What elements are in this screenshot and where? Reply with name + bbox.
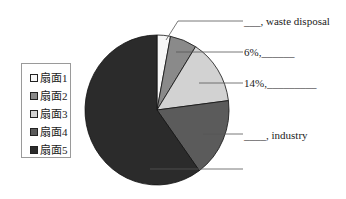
legend-swatch-5 [30, 146, 38, 154]
legend-item-4: 扇面4 [30, 125, 68, 139]
slice3-percent: 14%, [244, 77, 267, 89]
slice4-annotation: ____, industry [244, 129, 308, 141]
legend-label-3: 扇面3 [40, 107, 68, 121]
legend-swatch-3 [30, 110, 38, 118]
slice3-blank: _________ [267, 77, 317, 89]
slice1-blank: ___ [244, 15, 261, 27]
legend-label-1: 扇面1 [40, 71, 68, 85]
legend-label-2: 扇面2 [40, 89, 68, 103]
legend-label-4: 扇面4 [40, 125, 68, 139]
slice2-annotation: 6%,______ [244, 46, 294, 58]
legend-swatch-1 [30, 74, 38, 82]
legend-item-5: 扇面5 [30, 143, 68, 157]
slice4-blank: ____ [244, 129, 266, 141]
leader-line-1 [166, 21, 243, 40]
slice1-category: , waste disposal [261, 15, 330, 27]
legend-item-1: 扇面1 [30, 71, 68, 85]
legend-label-5: 扇面5 [40, 143, 68, 157]
legend-item-3: 扇面3 [30, 107, 68, 121]
slice1-annotation: ___, waste disposal [244, 15, 330, 27]
slice4-category: , industry [266, 129, 308, 141]
pie-slices [85, 35, 229, 185]
chart-legend: 扇面1 扇面2 扇面3 扇面4 扇面5 [21, 63, 71, 158]
legend-swatch-2 [30, 92, 38, 100]
slice3-annotation: 14%,_________ [244, 77, 316, 89]
slice2-percent: 6%, [244, 46, 261, 58]
slice2-blank: ______ [261, 46, 294, 58]
legend-swatch-4 [30, 128, 38, 136]
legend-item-2: 扇面2 [30, 89, 68, 103]
